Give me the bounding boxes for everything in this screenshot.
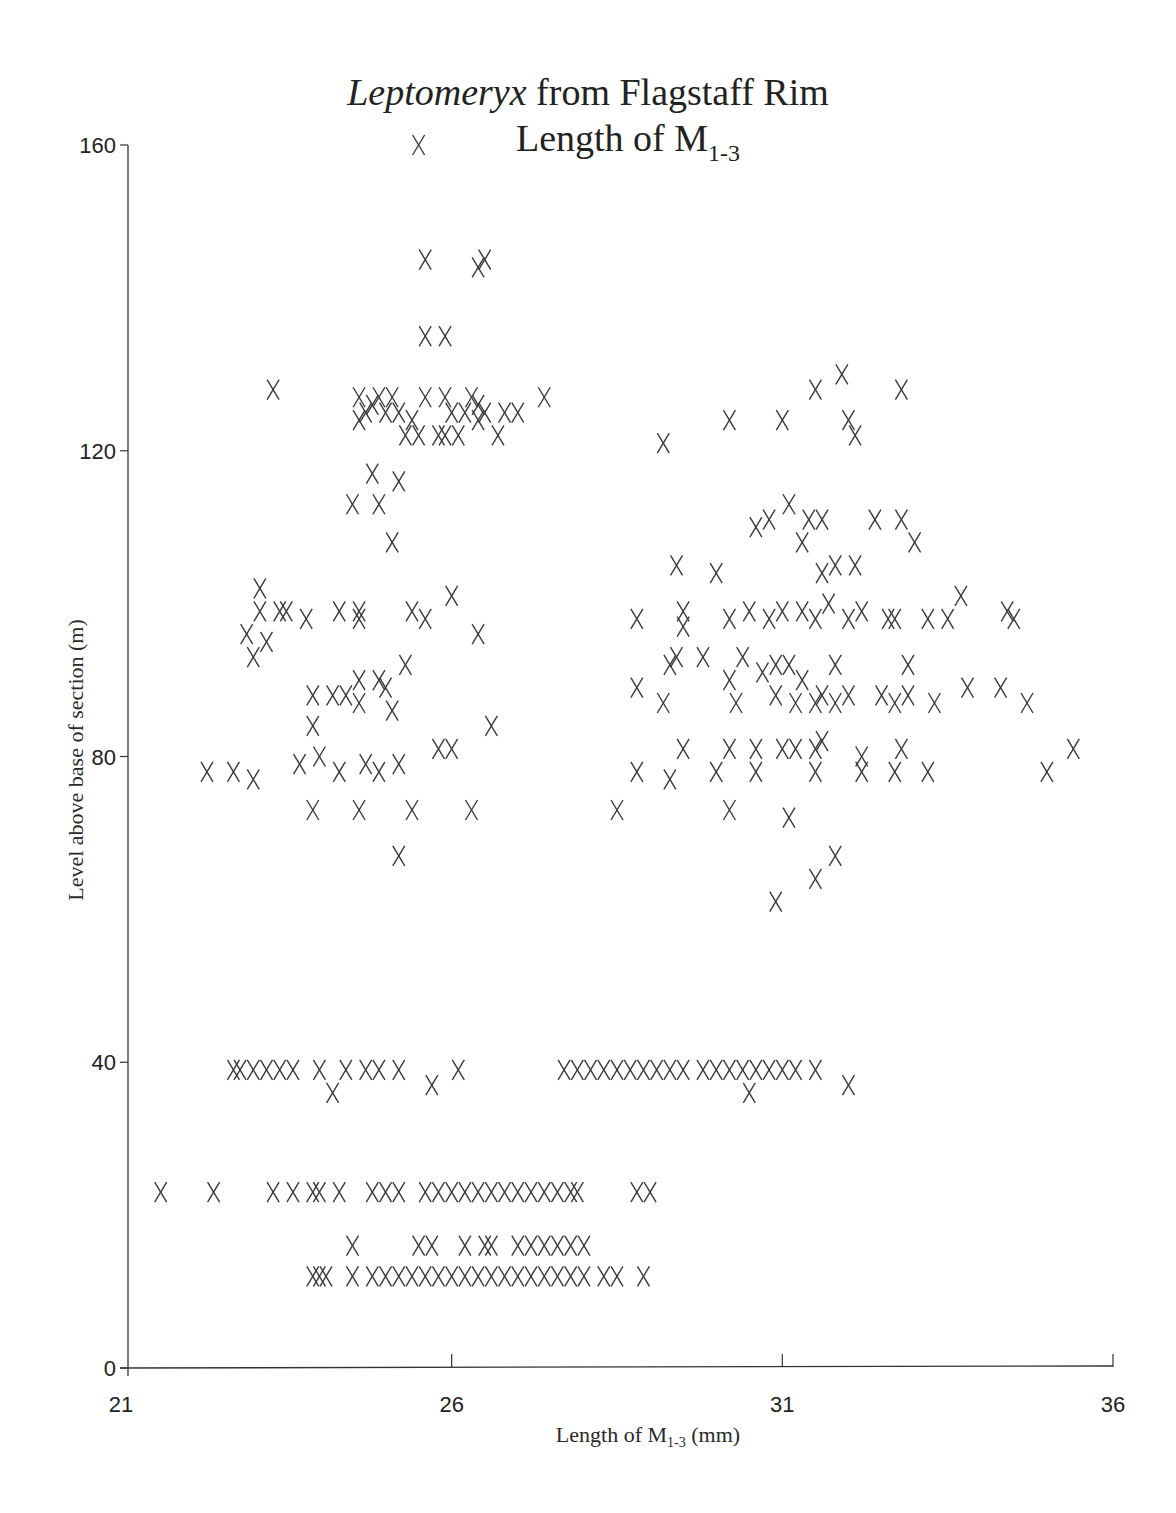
data-point-x-marker: [393, 846, 405, 866]
data-point-x-marker: [578, 1236, 590, 1256]
x-axis-line: [120, 1366, 1113, 1368]
data-point-x-marker: [287, 1060, 299, 1080]
data-point-x-marker: [287, 1182, 299, 1202]
data-point-x-marker: [399, 425, 411, 445]
data-point-x-marker: [360, 1060, 372, 1080]
data-point-x-marker: [346, 1236, 358, 1256]
data-point-x-marker: [770, 655, 782, 675]
data-point-x-marker: [1021, 693, 1033, 713]
data-point-x-marker: [677, 1060, 689, 1080]
data-point-x-marker: [313, 1060, 325, 1080]
data-point-x-marker: [426, 1236, 438, 1256]
data-point-x-marker: [247, 647, 259, 667]
data-point-x-marker: [889, 609, 901, 629]
data-point-x-marker: [353, 670, 365, 690]
y-tick-label: 120: [79, 439, 116, 464]
data-point-x-marker: [902, 655, 914, 675]
x-tick-label: 36: [1101, 1392, 1125, 1417]
data-point-x-marker: [333, 762, 345, 782]
data-point-x-marker: [637, 1266, 649, 1286]
data-point-x-marker: [459, 403, 471, 423]
data-point-x-marker: [366, 1182, 378, 1202]
data-point-x-marker: [373, 762, 385, 782]
x-tick-label: 26: [439, 1392, 463, 1417]
data-point-x-marker: [419, 387, 431, 407]
data-point-x-marker: [479, 1236, 491, 1256]
data-point-x-marker: [783, 494, 795, 514]
data-point-x-marker: [313, 1182, 325, 1202]
data-point-x-marker: [446, 1266, 458, 1286]
data-point-x-marker: [360, 754, 372, 774]
data-point-x-marker: [882, 609, 894, 629]
data-point-x-marker: [439, 387, 451, 407]
data-point-x-marker: [472, 257, 484, 277]
data-point-x-marker: [776, 410, 788, 430]
data-point-x-marker: [836, 364, 848, 384]
data-point-x-marker: [842, 685, 854, 705]
data-point-x-marker: [955, 586, 967, 606]
data-point-x-marker: [241, 624, 253, 644]
y-tick-label: 160: [79, 133, 116, 158]
data-point-x-marker: [551, 1236, 563, 1256]
data-point-x-marker: [809, 762, 821, 782]
data-point-x-marker: [538, 1266, 550, 1286]
data-point-x-marker: [247, 769, 259, 789]
data-point-x-marker: [340, 685, 352, 705]
x-label-unit: (mm): [686, 1422, 740, 1447]
data-point-x-marker: [809, 1060, 821, 1080]
data-point-x-marker: [664, 769, 676, 789]
data-point-x-marker: [895, 739, 907, 759]
data-point-x-marker: [472, 624, 484, 644]
data-point-x-marker: [340, 1060, 352, 1080]
data-point-x-marker: [459, 1236, 471, 1256]
data-point-x-marker: [307, 1182, 319, 1202]
data-point-x-marker: [922, 762, 934, 782]
data-point-x-marker: [730, 693, 742, 713]
data-point-x-marker: [419, 250, 431, 270]
data-point-x-marker: [710, 762, 722, 782]
data-point-x-marker: [413, 425, 425, 445]
data-point-x-marker: [386, 532, 398, 552]
data-point-x-marker: [644, 1182, 656, 1202]
data-point-x-marker: [723, 1060, 735, 1080]
data-point-x-marker: [677, 739, 689, 759]
data-point-x-marker: [426, 1075, 438, 1095]
data-point-x-marker: [770, 685, 782, 705]
data-point-x-marker: [816, 685, 828, 705]
data-point-x-marker: [829, 655, 841, 675]
scatter-plot: 0408012016021263136: [0, 0, 1176, 1513]
data-point-x-marker: [842, 1075, 854, 1095]
y-tick-label: 0: [104, 1356, 116, 1381]
data-point-x-marker: [254, 578, 266, 598]
data-point-x-marker: [756, 662, 768, 682]
data-point-x-marker: [320, 1266, 332, 1286]
data-point-x-marker: [346, 494, 358, 514]
data-point-x-marker: [525, 1182, 537, 1202]
data-point-x-marker: [459, 1266, 471, 1286]
data-point-x-marker: [664, 655, 676, 675]
data-point-x-marker: [485, 716, 497, 736]
data-point-x-marker: [737, 647, 749, 667]
data-point-x-marker: [816, 510, 828, 530]
data-point-x-marker: [386, 387, 398, 407]
data-point-x-marker: [201, 762, 213, 782]
data-point-x-marker: [637, 1060, 649, 1080]
data-point-x-marker: [922, 609, 934, 629]
data-point-x-marker: [393, 1182, 405, 1202]
data-point-x-marker: [856, 601, 868, 621]
data-point-x-marker: [267, 1182, 279, 1202]
data-point-x-marker: [809, 609, 821, 629]
data-point-x-marker: [419, 326, 431, 346]
data-point-x-marker: [571, 1182, 583, 1202]
data-point-x-marker: [671, 647, 683, 667]
data-point-x-marker: [280, 601, 292, 621]
data-point-x-marker: [307, 1266, 319, 1286]
data-point-x-marker: [419, 1266, 431, 1286]
data-point-x-marker: [796, 601, 808, 621]
data-point-x-marker: [393, 1266, 405, 1286]
data-point-x-marker: [809, 869, 821, 889]
data-point-x-marker: [512, 1182, 524, 1202]
data-point-x-marker: [624, 1060, 636, 1080]
data-point-x-marker: [538, 1182, 550, 1202]
data-point-x-marker: [155, 1182, 167, 1202]
